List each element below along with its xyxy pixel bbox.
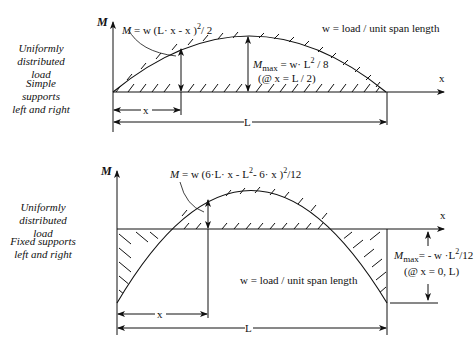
bottom-equation-leader <box>180 182 204 212</box>
top-moment-curve <box>113 36 386 92</box>
bottom-x-axis-label: x <box>440 209 446 221</box>
top-load-definition: w = load / unit span length <box>322 22 440 34</box>
top-hatch <box>116 84 382 92</box>
top-x-axis-label: x <box>439 72 445 84</box>
bottom-x-dim-label: x <box>157 308 163 320</box>
bottom-mmax-equation: Mmax= - w ·L2/12 <box>393 247 473 264</box>
bottom-diagram: M x <box>100 164 473 335</box>
top-diagram: M x <box>96 15 445 132</box>
top-mmax-equation: Mmax = w· L2 / 8 <box>252 56 329 73</box>
top-L-dim-label: L <box>244 116 251 128</box>
top-moment-equation: M = w (L· x - x )2/ 2 <box>121 22 212 37</box>
bottom-load-definition: w = load / unit span length <box>240 274 358 286</box>
bottom-moment-equation: M = w (6·L· x - L2- 6· x )2/12 <box>169 166 301 181</box>
bottom-moment-curve <box>117 191 387 304</box>
top-max-location: (@ x = L / 2) <box>258 72 316 85</box>
bottom-max-location: (@ x = 0, L) <box>404 265 459 278</box>
top-m-axis-label: M <box>96 15 108 29</box>
top-x-dim-label: x <box>143 104 149 116</box>
bottom-m-axis-label: M <box>100 164 112 178</box>
moment-diagrams: M x <box>0 0 475 345</box>
bottom-L-dim-label: L <box>245 322 252 334</box>
